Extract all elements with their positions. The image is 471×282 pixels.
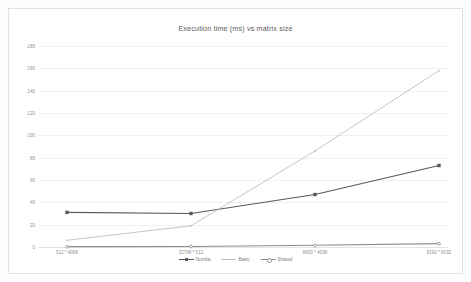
x-tick-label: 32768 * 512: [179, 250, 203, 255]
chart-legend: NumbaBasicShared: [9, 257, 462, 262]
data-point: [190, 225, 192, 227]
y-tick-label: 20: [30, 222, 35, 227]
data-point: [313, 193, 316, 196]
y-tick-label: 0: [32, 245, 35, 250]
legend-swatch-icon: [179, 257, 194, 262]
data-point: [437, 164, 440, 167]
legend-label: Numba: [196, 257, 211, 262]
y-tick-label: 180: [27, 44, 35, 49]
legend-label: Shared: [278, 257, 293, 262]
legend-item-numba[interactable]: Numba: [179, 257, 211, 262]
data-point: [438, 70, 440, 72]
chart-container: Execution time (ms) vs matrix size 18016…: [8, 8, 463, 274]
x-tick-label: 512 * 4096: [56, 250, 78, 255]
series-lines: [39, 46, 449, 247]
data-point: [190, 245, 193, 248]
legend-swatch-icon: [221, 257, 236, 262]
series-numba: [65, 164, 440, 215]
series-line: [67, 244, 439, 247]
series-line: [67, 165, 439, 213]
data-point: [66, 239, 68, 241]
plot-inner: 180160140120100806040200 512 * 409632768…: [39, 46, 449, 247]
data-point: [314, 150, 316, 152]
legend-item-shared[interactable]: Shared: [261, 257, 293, 262]
y-tick-label: 60: [30, 178, 35, 183]
series-basic: [66, 70, 440, 242]
legend-swatch-icon: [261, 257, 276, 262]
x-tick-label: 8600 * 4096: [303, 250, 327, 255]
data-point: [314, 244, 317, 247]
data-point: [189, 212, 192, 215]
data-point: [65, 211, 68, 214]
y-tick-label: 120: [27, 111, 35, 116]
y-tick-label: 100: [27, 133, 35, 138]
chart-title: Execution time (ms) vs matrix size: [9, 24, 462, 33]
plot-area: 180160140120100806040200 512 * 409632768…: [39, 38, 449, 247]
legend-item-basic[interactable]: Basic: [221, 257, 249, 262]
series-line: [67, 71, 439, 241]
x-tick-label: 8192 * 8192: [427, 250, 451, 255]
scanned-page: Execution time (ms) vs matrix size 18016…: [0, 0, 471, 282]
legend-label: Basic: [238, 257, 249, 262]
y-tick-label: 40: [30, 200, 35, 205]
y-tick-label: 80: [30, 155, 35, 160]
data-point: [66, 245, 69, 248]
y-tick-label: 140: [27, 88, 35, 93]
y-tick-label: 160: [27, 66, 35, 71]
data-point: [438, 242, 441, 245]
